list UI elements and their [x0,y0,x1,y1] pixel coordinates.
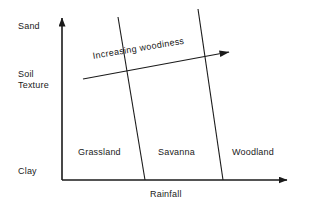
y-axis-title-line1: Soil [18,69,34,79]
y-axis-title-line2: Texture [18,80,49,90]
y-axis-title-soil-texture: SoilTexture [18,69,49,91]
diagram-canvas [0,0,311,206]
soil-texture-rainfall-diagram: Sand SoilTexture Clay Grassland Savanna … [0,0,311,206]
zone-divider-grassland-savanna [118,17,145,180]
x-axis-label-rainfall: Rainfall [150,189,182,200]
zone-label-savanna: Savanna [158,147,195,158]
zone-divider-savanna-woodland [198,9,223,180]
y-axis-label-sand: Sand [18,21,40,32]
zone-label-woodland: Woodland [232,147,274,158]
y-axis-label-clay: Clay [18,166,37,177]
zone-label-grassland: Grassland [78,147,121,158]
